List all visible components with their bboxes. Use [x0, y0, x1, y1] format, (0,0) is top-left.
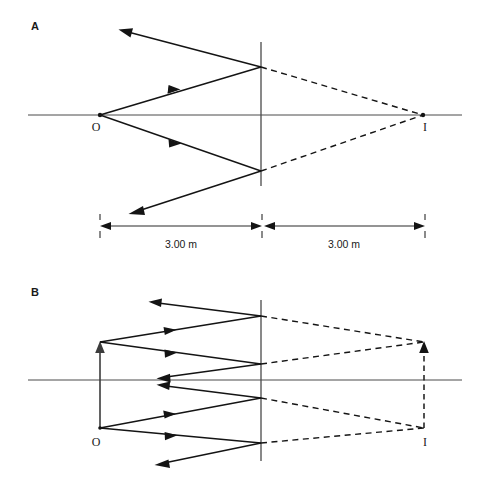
dim-arrow-left-start: [100, 222, 111, 230]
virtual-ray-base-upper-b: [261, 398, 424, 428]
arrowhead-incident-tip-upper-b: [164, 327, 177, 335]
image-label-b: I: [423, 435, 427, 449]
incident-ray-upper-a: [100, 67, 261, 115]
arrowhead-reflected-lower-a: [129, 206, 146, 215]
dimension-bar-a: 3.00 m 3.00 m: [100, 214, 425, 250]
virtual-ray-lower-a: [261, 115, 423, 171]
dim-arrow-right-end: [414, 222, 425, 230]
incident-ray-lower-a: [100, 115, 261, 171]
object-label-a: O: [92, 120, 101, 134]
arrowhead-incident-base-lower-b: [165, 432, 178, 440]
panel-b-label: B: [31, 286, 39, 298]
dim-label-image-distance: 3.00 m: [328, 238, 360, 250]
incident-ray-base-upper-b: [100, 398, 261, 428]
reflected-ray-base-upper-b: [166, 386, 261, 398]
incident-ray-tip-upper-b: [100, 316, 261, 342]
dim-arrow-right-start: [264, 222, 275, 230]
panel-a: A: [28, 20, 462, 250]
virtual-ray-tip-upper-b: [261, 316, 424, 342]
arrowhead-reflected-base-upper-b: [157, 382, 171, 391]
reflected-ray-lower-a: [138, 171, 261, 211]
arrowhead-reflected-base-lower-b: [155, 460, 171, 469]
reflected-ray-tip-lower-b: [166, 364, 261, 377]
arrowhead-reflected-upper-a: [119, 28, 134, 37]
arrowhead-reflected-tip-lower-b: [157, 374, 171, 383]
arrowhead-incident-tip-lower-b: [164, 350, 177, 358]
optics-ray-diagram: A: [0, 0, 486, 479]
arrowhead-reflected-tip-upper-b: [149, 299, 163, 308]
figure-root: A: [0, 0, 486, 479]
dim-arrow-left-end: [251, 222, 262, 230]
image-label-a: I: [423, 120, 427, 134]
dim-label-object-distance: 3.00 m: [165, 238, 197, 250]
object-label-b: O: [92, 435, 101, 449]
reflected-ray-upper-a: [128, 32, 261, 67]
reflected-ray-base-lower-b: [164, 443, 261, 463]
panel-a-label: A: [31, 20, 39, 32]
virtual-ray-upper-a: [261, 67, 423, 115]
reflected-ray-tip-upper-b: [158, 303, 261, 316]
incident-ray-tip-lower-b: [100, 342, 261, 364]
virtual-ray-tip-lower-b: [261, 342, 424, 364]
virtual-ray-base-lower-b: [261, 428, 424, 443]
arrowhead-incident-base-upper-b: [163, 411, 176, 419]
panel-b: B: [28, 286, 462, 468]
incident-ray-base-lower-b: [100, 428, 261, 443]
